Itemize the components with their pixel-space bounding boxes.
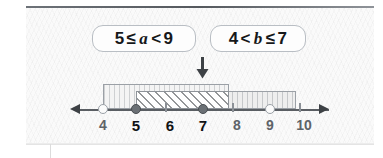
tick-label-9: 9 [258,117,282,133]
tick-label-6: 6 [158,117,182,134]
marker-open-9 [265,104,275,114]
tick-label-8: 8 [225,117,249,133]
figure-panel: 5≤a<9 4<b≤7 4 5 [26,8,374,145]
tick-6 [165,103,167,112]
tick-label-5: 5 [124,117,148,134]
number-line: 4 5 6 7 8 9 10 [26,8,374,144]
tick-label-4: 4 [91,117,115,133]
tick-label-7: 7 [191,117,215,134]
marker-closed-5 [131,104,141,114]
tick-8 [232,103,234,112]
axis-arrow-right-icon [319,104,329,114]
marker-open-4 [98,104,108,114]
axis-arrow-left-icon [70,104,80,114]
bottom-divider [26,143,374,144]
interval-bar-overlap [136,91,229,109]
tick-label-10: 10 [292,117,316,133]
figure-root: 5≤a<9 4<b≤7 4 5 [0,0,383,158]
bottom-tick-mark [50,144,51,158]
tick-10 [299,103,301,112]
marker-closed-7 [198,104,208,114]
